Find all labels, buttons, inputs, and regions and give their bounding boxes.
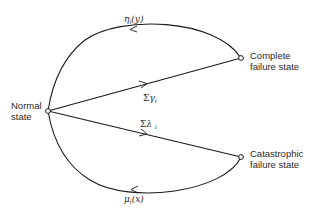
label-sum-gamma-failure-rate: Σγi [143, 93, 157, 106]
lambda-subscript: i [155, 123, 157, 130]
label-normal-line1: Normal [11, 100, 42, 111]
label-complete-line1: Complete [250, 50, 299, 61]
eta-argument: (y) [131, 14, 143, 24]
edge-fail-catastrophic-line [48, 111, 241, 157]
label-normal-line2: state [11, 111, 42, 122]
gamma-subscript: i [155, 97, 157, 104]
lambda-symbol: λ [146, 119, 152, 129]
mu-argument: (x) [132, 194, 144, 204]
label-catastrophic-line1: Catastrophic [250, 148, 303, 159]
label-normal-state: Normal state [11, 100, 42, 122]
node-complete-failure [239, 56, 244, 61]
label-eta-repair-rate: ηi(y) [124, 14, 143, 27]
label-complete-line2: failure state [250, 61, 299, 72]
label-catastrophic-failure-state: Catastrophic failure state [250, 148, 303, 170]
label-catastrophic-line2: failure state [250, 159, 303, 170]
label-mu-repair-rate: μi(x) [124, 194, 144, 207]
label-complete-failure-state: Complete failure state [250, 50, 299, 72]
label-sum-lambda-failure-rate: Σλ i [140, 119, 157, 132]
node-normal [46, 109, 51, 114]
node-catastrophic-failure [239, 155, 244, 160]
